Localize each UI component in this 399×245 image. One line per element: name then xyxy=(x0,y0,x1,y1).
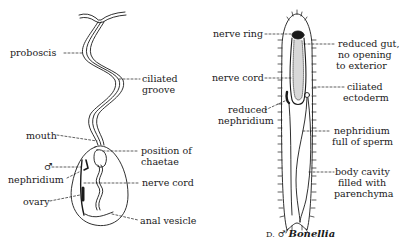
label-anal-vesicle: anal vesicle xyxy=(140,216,196,227)
label-ciliated-groove-line2: groove xyxy=(142,85,175,96)
label-ciliated-ectoderm-line2: ectoderm xyxy=(343,93,389,104)
label-nerve-cord-male: nerve cord xyxy=(212,73,264,84)
label-body-cavity-line1: body cavity xyxy=(335,167,390,178)
label-nephridium-sperm-line2: full of sperm xyxy=(332,137,393,148)
label-reduced-gut-line3: to exterior xyxy=(336,61,387,72)
label-body-cavity-line3: parenchyma xyxy=(334,189,394,200)
label-reduced-nephridium-line1: reduced xyxy=(228,105,267,116)
label-position-of-chaetae-line1: position of xyxy=(141,146,192,157)
label-position-of-chaetae-line2: chaetae xyxy=(141,157,179,168)
label-nerve-cord: nerve cord xyxy=(142,178,194,189)
caption-species-name: Bonellia xyxy=(289,228,336,239)
figure-caption: D. ♂ Bonellia xyxy=(266,228,335,239)
diagram-canvas xyxy=(0,0,399,245)
label-ovary: ovary xyxy=(23,197,50,208)
label-nerve-ring: nerve ring xyxy=(213,29,263,40)
caption-male-symbol: ♂ xyxy=(278,229,286,239)
label-ciliated-ectoderm-line1: ciliated xyxy=(347,82,383,93)
label-proboscis: proboscis xyxy=(10,48,56,59)
female-bonellia-drawing xyxy=(71,12,128,226)
label-nephridium-sperm-line1: nephridium xyxy=(334,126,390,137)
caption-prefix: D. xyxy=(266,230,275,239)
label-reduced-gut-line2: no opening xyxy=(338,50,392,61)
male-bonellia-drawing xyxy=(278,10,316,233)
label-body-cavity-line2: filled with xyxy=(338,178,386,189)
label-reduced-nephridium-line2: nephridium xyxy=(218,116,274,127)
label-nephridium: nephridium xyxy=(8,175,64,186)
label-reduced-gut-line1: reduced gut, xyxy=(338,39,399,50)
label-ciliated-groove-line1: ciliated xyxy=(142,74,178,85)
label-mouth: mouth xyxy=(26,131,57,142)
label-male-symbol: ♂ xyxy=(44,162,53,173)
